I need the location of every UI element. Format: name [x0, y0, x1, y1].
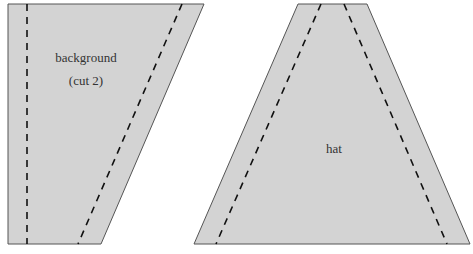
hat-piece: hat [194, 4, 470, 244]
background-piece: background (cut 2) [8, 4, 204, 244]
hat-label: hat [326, 141, 342, 156]
background-label: background [55, 50, 117, 65]
pattern-canvas: background (cut 2) hat [0, 0, 473, 254]
hat-piece-outline [194, 4, 470, 244]
background-piece-outline [8, 4, 204, 244]
pattern-diagram: background (cut 2) hat [0, 0, 473, 254]
background-cut-count: (cut 2) [69, 73, 103, 88]
